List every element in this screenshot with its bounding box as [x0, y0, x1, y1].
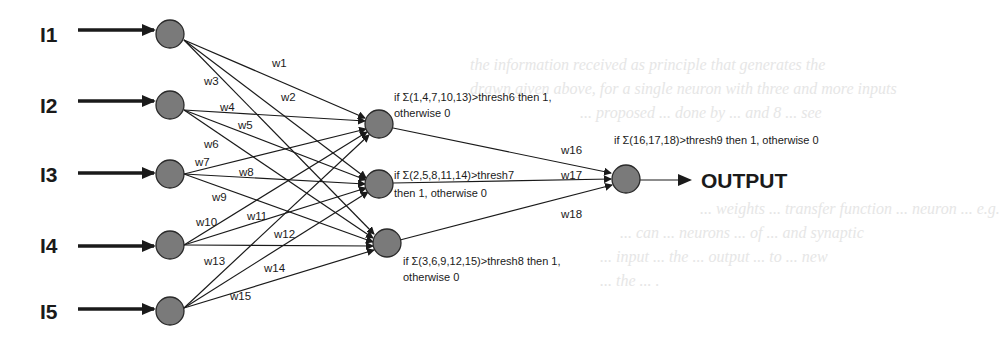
- hidden-node-7: [365, 170, 393, 198]
- weight-label-w9: w9: [211, 191, 227, 203]
- input-node-2: [156, 91, 184, 119]
- input-node-5: [156, 297, 184, 325]
- weight-label-w6: w6: [203, 138, 219, 150]
- input-node-3: [156, 160, 184, 188]
- output-node: [612, 165, 640, 193]
- weight-label-w14: w14: [263, 262, 286, 274]
- hidden-node-8: [373, 229, 401, 257]
- hidden-rule-8-line1: if Σ(3,6,9,12,15)>thresh8 then 1,: [403, 255, 561, 267]
- hidden-rule-6-line2: otherwise 0: [394, 107, 450, 119]
- output-label: OUTPUT: [701, 169, 788, 192]
- hidden-rule-8-line2: otherwise 0: [403, 271, 459, 283]
- weight-label-w1: w1: [271, 57, 287, 69]
- hidden-rule-7-line1: if Σ(2,5,8,11,14)>thresh7: [394, 169, 514, 181]
- weight-label-w13: w13: [203, 255, 225, 267]
- hidden-node-6: [365, 110, 393, 138]
- input-label-i1: I1: [40, 23, 58, 46]
- weight-label-w11: w11: [246, 210, 267, 222]
- weight-label-w16: w16: [560, 144, 582, 156]
- weight-label-w12: w12: [273, 228, 295, 240]
- hidden-rule-6-line1: if Σ(1,4,7,10,13)>thresh6 then 1,: [394, 91, 552, 103]
- input-label-i4: I4: [40, 234, 58, 257]
- weight-label-w3: w3: [203, 75, 219, 87]
- hidden-rule-7-line2: then 1, otherwise 0: [394, 187, 487, 199]
- input-label-i3: I3: [40, 163, 58, 186]
- weight-label-w7: w7: [194, 156, 210, 168]
- weight-label-w15: w15: [229, 290, 251, 302]
- input-label-i2: I2: [40, 94, 58, 117]
- weight-label-w8: w8: [238, 166, 254, 178]
- weight-label-w4: w4: [219, 101, 235, 113]
- output-rule: if Σ(16,17,18)>thresh9 then 1, otherwise…: [614, 134, 819, 146]
- input-node-4: [156, 231, 184, 259]
- weight-label-w18: w18: [560, 208, 582, 220]
- weight-label-w10: w10: [195, 216, 217, 228]
- weight-label-w5: w5: [237, 119, 253, 131]
- input-node-1: [156, 20, 184, 48]
- weight-label-w17: w17: [560, 169, 582, 181]
- weight-label-w2: w2: [280, 91, 296, 103]
- input-label-i5: I5: [40, 300, 58, 323]
